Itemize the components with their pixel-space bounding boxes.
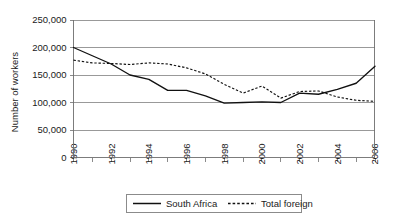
y-tick-label: 0 <box>61 152 66 163</box>
x-tick-label: 2002 <box>294 143 305 164</box>
gridlines <box>74 20 376 130</box>
y-tick-label: 100,000 <box>32 97 66 108</box>
y-tick-label: 250,000 <box>32 14 66 25</box>
legend-label-total-foreign: Total foreign <box>261 198 313 209</box>
x-tick-label: 1994 <box>143 143 154 164</box>
x-tick-label: 2000 <box>256 143 267 164</box>
y-axis-title: Number of workers <box>9 52 20 132</box>
x-tick-label: 1996 <box>181 143 192 164</box>
x-axis-tick-labels: 199019921994199619982000200220042006 <box>68 143 381 164</box>
series-line-total-foreign <box>74 60 376 101</box>
x-tick-label: 2004 <box>332 143 343 164</box>
legend-label-south-africa: South Africa <box>166 198 218 209</box>
line-chart: Number of workers 250,000200,000150,0001… <box>0 0 399 223</box>
x-tick-label: 1998 <box>219 143 230 164</box>
y-tick-label: 50,000 <box>37 124 66 135</box>
x-tick-label: 1992 <box>106 143 117 164</box>
y-axis-tick-labels: 250,000200,000150,000100,00050,0000 <box>32 14 73 163</box>
chart-legend: South Africa Total foreign <box>127 195 313 213</box>
y-tick-label: 150,000 <box>32 69 66 80</box>
chart-figure: Number of workers 250,000200,000150,0001… <box>0 0 399 223</box>
y-tick-label: 200,000 <box>32 42 66 53</box>
